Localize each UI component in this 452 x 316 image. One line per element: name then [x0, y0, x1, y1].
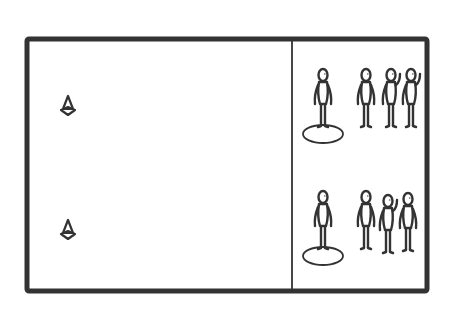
waiting-player-icon: [358, 191, 374, 249]
waiting-player-icon: [380, 195, 397, 253]
leader-player-icon: [315, 69, 331, 127]
start-position-marker: [303, 125, 343, 143]
player-groups: [303, 69, 420, 265]
cone-icon: [61, 220, 75, 239]
leader-player-icon: [315, 191, 331, 249]
group-bottom: [303, 191, 416, 265]
group-top: [303, 69, 420, 143]
waiting-player-icon: [400, 193, 416, 251]
cone-icon: [61, 96, 75, 115]
start-position-marker: [303, 247, 343, 265]
waiting-player-icon: [358, 69, 374, 127]
drill-diagram: [0, 0, 452, 316]
waiting-player-icon: [403, 69, 420, 127]
waiting-player-icon: [383, 69, 400, 127]
cones: [61, 96, 75, 239]
